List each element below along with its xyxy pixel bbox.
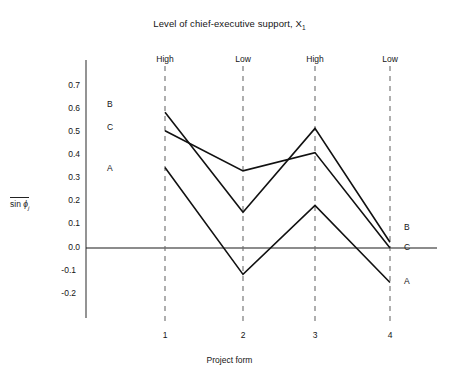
chart-figure: Level of chief-executive support, X1 sin… bbox=[0, 0, 459, 387]
series-line-a bbox=[165, 168, 390, 283]
series-line-b bbox=[165, 112, 390, 242]
chart-plot-area bbox=[0, 0, 459, 387]
series-line-c bbox=[165, 131, 390, 248]
